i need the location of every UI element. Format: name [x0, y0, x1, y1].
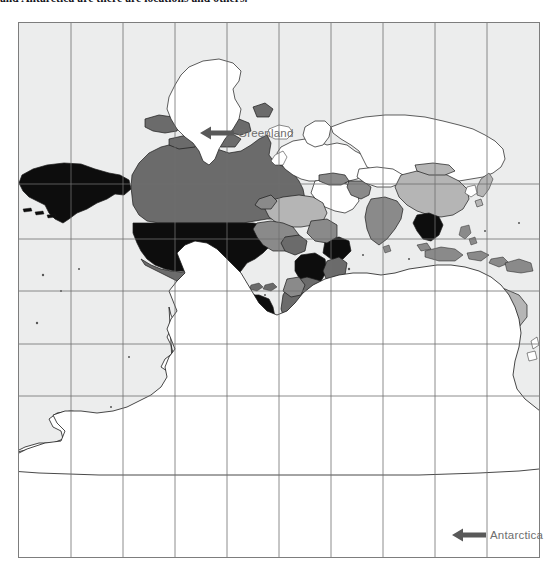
- caption-text: and Antarctica are there are locations a…: [0, 0, 555, 5]
- annotation-antarctica[interactable]: Antarctica: [452, 527, 543, 543]
- annotation-antarctica-label: Antarctica: [486, 529, 543, 541]
- annotation-greenland-label: Greenland: [234, 127, 294, 139]
- annotation-greenland[interactable]: Greenland: [200, 125, 294, 141]
- caption-strip: and Antarctica are there are locations a…: [0, 0, 555, 5]
- left-arrow-icon: [200, 125, 234, 141]
- world-map-frame: [18, 22, 540, 558]
- left-arrow-icon: [452, 527, 486, 543]
- world-map-canvas[interactable]: [19, 23, 539, 557]
